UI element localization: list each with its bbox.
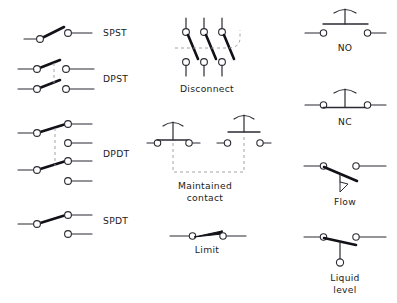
no-terminal-left	[320, 30, 326, 36]
spdt-terminal-b	[65, 231, 72, 238]
symbol-liquid-level: Liquid level	[304, 234, 386, 295]
dpdt-p2-terminal-b	[65, 178, 72, 185]
symbol-nc: NC	[305, 89, 386, 127]
symbol-dpst: DPST	[18, 60, 128, 92]
symbol-spst: SPST	[24, 27, 127, 42]
dpst-p1-terminal-left	[34, 66, 41, 73]
liquid-float-ball	[336, 259, 343, 266]
maintained-right-terminal-b	[257, 140, 263, 146]
diagram-canvas: SPST DPST	[0, 0, 397, 303]
disconnect-p3-terminal-bottom	[219, 59, 226, 66]
dpdt-p2-blade	[37, 161, 66, 170]
limit-terminal-right	[220, 233, 226, 239]
symbol-flow: Flow	[304, 163, 386, 207]
limit-actuator-wedge	[194, 231, 222, 237]
disconnect-p1-blade	[188, 35, 198, 59]
dpst-p1-terminal-right	[63, 66, 70, 73]
dpdt-p1-terminal-b	[65, 140, 72, 147]
spdt-blade	[37, 215, 66, 224]
liquid-terminal-right	[353, 234, 359, 240]
spst-terminal-left	[37, 36, 44, 43]
dpdt-p2-terminal-common	[34, 167, 41, 174]
liquid-label-line2: level	[333, 284, 356, 295]
nc-terminal-right	[364, 102, 370, 108]
disconnect-p1-terminal-bottom	[183, 59, 190, 66]
spst-blade	[40, 27, 64, 39]
liquid-label-line1: Liquid	[330, 272, 360, 283]
dpdt-p1-terminal-common	[34, 130, 41, 137]
switch-symbols-diagram: SPST DPST	[0, 0, 397, 303]
limit-terminal-left	[189, 233, 195, 239]
symbol-limit: Limit	[170, 231, 246, 255]
dpdt-p1-blade	[37, 124, 66, 133]
flow-label: Flow	[334, 196, 356, 207]
dpst-label: DPST	[103, 73, 128, 84]
disconnect-p2-blade	[206, 35, 216, 59]
maintained-label-line2: contact	[187, 192, 224, 203]
limit-label: Limit	[195, 244, 219, 255]
maintained-left-terminal-a	[154, 140, 160, 146]
spst-terminal-right	[65, 30, 72, 37]
nc-label: NC	[338, 116, 352, 127]
dpst-p2-terminal-left	[34, 86, 41, 93]
no-terminal-right	[364, 30, 370, 36]
dpdt-p2-terminal-a	[65, 158, 72, 165]
no-label: NO	[338, 42, 353, 53]
symbol-maintained-contact: Maintained contact	[147, 115, 271, 203]
spst-label: SPST	[103, 27, 127, 38]
spdt-terminal-common	[34, 221, 41, 228]
disconnect-label: Disconnect	[180, 83, 234, 94]
symbol-dpdt: DPDT	[18, 121, 130, 185]
disconnect-p3-blade	[224, 35, 234, 59]
maintained-left-terminal-b	[186, 140, 192, 146]
flow-terminal-right	[353, 163, 359, 169]
symbol-disconnect: Disconnect	[175, 18, 240, 94]
maintained-right-terminal-a	[224, 140, 230, 146]
disconnect-p2-terminal-bottom	[201, 59, 208, 66]
maintained-label-line1: Maintained	[178, 180, 232, 191]
symbol-no: NO	[305, 9, 386, 53]
dpdt-label: DPDT	[103, 148, 130, 159]
dpdt-p1-terminal-a	[65, 121, 72, 128]
flow-paddle-icon	[340, 182, 348, 192]
symbol-spdt: SPDT	[18, 212, 128, 238]
spdt-label: SPDT	[103, 215, 128, 226]
spdt-terminal-a	[65, 212, 72, 219]
dpst-p2-terminal-right	[63, 86, 70, 93]
